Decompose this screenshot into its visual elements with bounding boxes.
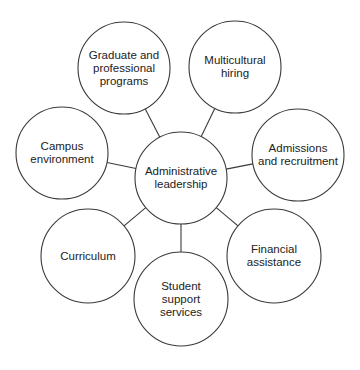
node-label-curriculum: Curriculum: [43, 250, 133, 263]
node-label-student-support-line: Student: [136, 280, 226, 293]
node-label-center: Administrativeleadership: [136, 165, 226, 191]
node-label-admissions-line: Admissions: [253, 142, 343, 155]
node-label-curriculum-line: Curriculum: [43, 250, 133, 263]
node-label-financial-line: Financial: [229, 243, 319, 256]
node-label-graduate-line: professional: [79, 62, 169, 75]
node-label-multicultural-line: hiring: [190, 67, 280, 80]
connector-curriculum: [124, 208, 146, 226]
node-label-campus-line: environment: [17, 153, 107, 166]
node-label-graduate-line: programs: [79, 75, 169, 88]
node-label-admissions: Admissionsand recruitment: [253, 142, 343, 168]
node-label-graduate-line: Graduate and: [79, 49, 169, 62]
connector-graduate: [145, 109, 160, 137]
node-label-graduate: Graduate andprofessionalprograms: [79, 49, 169, 88]
node-label-multicultural-line: Multicultural: [190, 54, 280, 67]
node-label-financial-line: assistance: [229, 256, 319, 269]
node-label-center-line: leadership: [136, 178, 226, 191]
connector-multicultural: [201, 108, 215, 136]
node-label-campus: Campusenvironment: [17, 140, 107, 166]
connector-campus: [107, 162, 136, 168]
node-label-student-support-line: services: [136, 306, 226, 319]
node-label-student-support: Studentsupportservices: [136, 280, 226, 319]
node-label-student-support-line: support: [136, 293, 226, 306]
node-label-campus-line: Campus: [17, 140, 107, 153]
node-label-multicultural: Multiculturalhiring: [190, 54, 280, 80]
node-label-admissions-line: and recruitment: [253, 155, 343, 168]
connector-financial: [216, 208, 238, 226]
connector-admissions: [226, 164, 253, 169]
node-label-financial: Financialassistance: [229, 243, 319, 269]
node-label-center-line: Administrative: [136, 165, 226, 178]
